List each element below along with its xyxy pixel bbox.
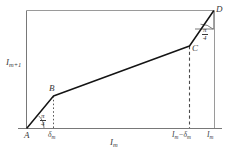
axis-frame — [18, 11, 222, 129]
angle-label-upper: π 4 — [202, 25, 208, 42]
angle-label-lower: π 4 — [40, 111, 46, 128]
plot-area — [0, 0, 234, 159]
x-tick-label-im-minus-delta-m: Im−δm — [172, 131, 191, 140]
point-label-b: B — [49, 84, 55, 93]
point-label-c: C — [192, 44, 198, 53]
point-label-d: D — [216, 5, 223, 14]
transfer-curve — [27, 11, 214, 128]
point-label-a: A — [24, 131, 30, 140]
x-tick-label-delta-m: δm — [48, 131, 55, 140]
angle-lower-denominator: 4 — [40, 121, 46, 128]
transfer-characteristic-figure: Im+1 Im A B C D π 4 π 4 δm Im−δm Im — [0, 0, 234, 159]
x-tick-label-im: Im — [207, 131, 213, 140]
x-axis-label: Im — [110, 138, 118, 148]
y-axis-label: Im+1 — [6, 58, 21, 68]
angle-upper-denominator: 4 — [202, 35, 208, 42]
